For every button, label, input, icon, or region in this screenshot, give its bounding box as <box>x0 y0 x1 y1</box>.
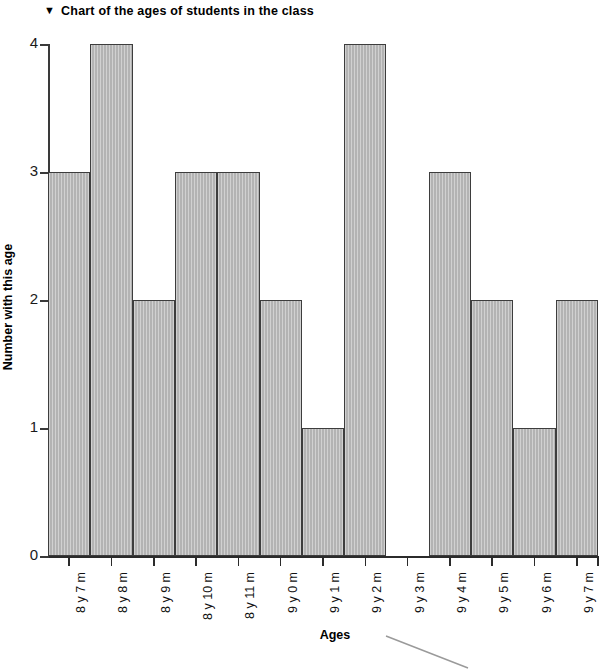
x-tick-label-8-y-8-m: 8 y 8 m <box>116 572 130 613</box>
x-tick-8-y-11-m <box>238 557 240 566</box>
x-axis-title: Ages <box>0 628 610 642</box>
bar-9-y-7-m <box>556 300 598 556</box>
x-tick-9-y-7-m <box>576 557 578 566</box>
bar-9-y-5-m <box>471 300 513 556</box>
y-tick-0 <box>40 556 49 558</box>
x-tick-9-y-0-m <box>280 557 282 566</box>
bar-9-y-4-m <box>429 172 471 556</box>
x-tick-label-9-y-2-m: 9 y 2 m <box>370 572 384 613</box>
bar-8-y-11-m <box>217 172 259 556</box>
bar-8-y-10-m <box>175 172 217 556</box>
plot-area <box>48 44 598 556</box>
y-tick-label-0: 0 <box>10 546 38 563</box>
x-tick-8-y-7-m <box>68 557 70 566</box>
x-tick-9-y-2-m <box>365 557 367 566</box>
x-tick-8-y-8-m <box>111 557 113 566</box>
y-tick-label-1: 1 <box>10 418 38 435</box>
x-tick-9-y-4-m <box>449 557 451 566</box>
bar-9-y-1-m <box>302 428 344 556</box>
bar-8-y-8-m <box>90 44 132 556</box>
y-tick-label-3: 3 <box>10 162 38 179</box>
x-tick-label-9-y-1-m: 9 y 1 m <box>328 572 342 613</box>
bar-9-y-6-m <box>513 428 555 556</box>
x-tick-label-8-y-7-m: 8 y 7 m <box>74 572 88 613</box>
bar-8-y-7-m <box>48 172 90 556</box>
x-tick-9-y-1-m <box>322 557 324 566</box>
y-axis-title: Number with this age <box>1 167 15 447</box>
x-tick-9-y-6-m <box>534 557 536 566</box>
bar-8-y-9-m <box>133 300 175 556</box>
x-tick-label-9-y-5-m: 9 y 5 m <box>497 572 511 613</box>
x-axis-end-tick <box>597 557 599 566</box>
x-tick-8-y-9-m <box>153 557 155 566</box>
y-tick-2 <box>40 300 49 302</box>
x-tick-8-y-10-m <box>195 557 197 566</box>
x-tick-label-9-y-7-m: 9 y 7 m <box>582 572 596 613</box>
x-tick-9-y-5-m <box>491 557 493 566</box>
y-tick-1 <box>40 428 49 430</box>
x-tick-label-8-y-11-m: 8 y 11 m <box>243 572 257 619</box>
x-tick-label-9-y-4-m: 9 y 4 m <box>455 572 469 613</box>
x-tick-label-9-y-0-m: 9 y 0 m <box>286 572 300 613</box>
x-tick-9-y-3-m <box>407 557 409 566</box>
bar-9-y-0-m <box>260 300 302 556</box>
x-tick-label-9-y-6-m: 9 y 6 m <box>540 572 554 613</box>
chart-title-text: Chart of the ages of students in the cla… <box>61 4 314 18</box>
y-tick-label-4: 4 <box>10 34 38 51</box>
x-tick-label-9-y-3-m: 9 y 3 m <box>413 572 427 613</box>
bar-9-y-2-m <box>344 44 386 556</box>
triangle-down-icon: ▼ <box>44 5 55 16</box>
x-tick-label-8-y-9-m: 8 y 9 m <box>159 572 173 613</box>
y-tick-4 <box>40 44 49 46</box>
y-tick-3 <box>40 172 49 174</box>
x-tick-label-8-y-10-m: 8 y 10 m <box>201 572 215 620</box>
page-title: ▼ Chart of the ages of students in the c… <box>44 4 314 18</box>
y-tick-label-2: 2 <box>10 290 38 307</box>
